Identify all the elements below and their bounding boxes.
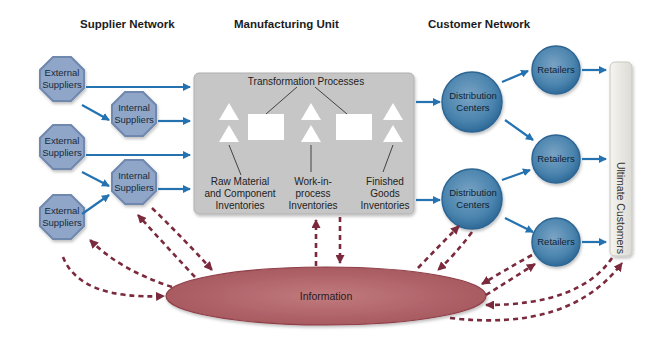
- inventory-line: Inventories: [204, 200, 275, 212]
- transformation-processes-label: Transformation Processes: [248, 76, 364, 88]
- supplier-type: External: [42, 67, 82, 79]
- inventory-line: Raw Material: [204, 176, 275, 188]
- ultimate-customers-label: Ultimate Customers: [615, 162, 627, 254]
- information-label: Information: [300, 290, 353, 302]
- supplier-noun: Suppliers: [42, 217, 82, 229]
- retailer-label-1: Retailers: [537, 64, 575, 76]
- inventory-line: Finished: [361, 176, 410, 188]
- supplier-type: Internal: [114, 102, 154, 114]
- retailer-label-3: Retailers: [537, 236, 575, 248]
- wip-inventories-label: Work-in- process Inventories: [289, 176, 338, 212]
- supplier-type: Internal: [114, 170, 154, 182]
- supplier-label-external-1: External Suppliers: [42, 67, 82, 91]
- supplier-noun: Suppliers: [42, 147, 82, 159]
- dc-line: Centers: [449, 199, 497, 211]
- inventory-line: and Component: [204, 188, 275, 200]
- inventory-line: Goods: [361, 188, 410, 200]
- dc-line: Distribution: [449, 187, 497, 199]
- distribution-center-label-2: Distribution Centers: [449, 187, 497, 211]
- supplier-type: External: [42, 135, 82, 147]
- dc-line: Distribution: [449, 90, 497, 102]
- inventory-line: Inventories: [361, 200, 410, 212]
- supplier-noun: Suppliers: [114, 182, 154, 194]
- supplier-type: External: [42, 205, 82, 217]
- manufacturing-output-arrows: [416, 102, 440, 200]
- distribution-center-label-1: Distribution Centers: [449, 90, 497, 114]
- supplier-noun: Suppliers: [114, 114, 154, 126]
- supplier-label-internal-1: Internal Suppliers: [114, 102, 154, 126]
- raw-material-inventories-label: Raw Material and Component Inventories: [204, 176, 275, 212]
- finished-goods-inventories-label: Finished Goods Inventories: [361, 176, 410, 212]
- retailer-label-2: Retailers: [537, 153, 575, 165]
- supplier-label-external-3: External Suppliers: [42, 205, 82, 229]
- supplier-noun: Suppliers: [42, 79, 82, 91]
- supplier-label-external-2: External Suppliers: [42, 135, 82, 159]
- inventory-line: process: [289, 188, 338, 200]
- inventory-line: Inventories: [289, 200, 338, 212]
- supplier-label-internal-2: Internal Suppliers: [114, 170, 154, 194]
- inventory-line: Work-in-: [289, 176, 338, 188]
- dc-line: Centers: [449, 102, 497, 114]
